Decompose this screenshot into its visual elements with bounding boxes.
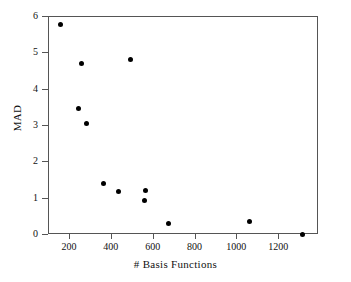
data-point [76, 106, 81, 111]
data-point [247, 219, 252, 224]
x-axis-label: # Basis Functions [0, 258, 351, 270]
data-point [128, 57, 133, 62]
x-axis-tick [236, 234, 237, 239]
y-axis-tick-label: 5 [33, 47, 38, 57]
data-point [116, 189, 121, 194]
data-point [79, 61, 84, 66]
x-axis-tick [195, 234, 196, 239]
y-axis-tick-label: 0 [33, 229, 38, 239]
x-axis-tick [278, 234, 279, 239]
data-point [143, 188, 148, 193]
data-point [58, 22, 63, 27]
data-point [84, 121, 89, 126]
data-point [166, 221, 171, 226]
y-axis-tick-label: 3 [33, 120, 38, 130]
y-axis-tick [42, 234, 48, 235]
x-axis-tick [153, 234, 154, 239]
x-axis-tick-label: 1200 [253, 241, 303, 252]
x-axis-tick [69, 234, 70, 239]
y-axis-tick-label: 4 [33, 84, 38, 94]
scatter-chart-figure: MAD 0123456 20040060080010001200 # Basis… [0, 0, 351, 282]
data-point [142, 198, 147, 203]
y-axis-tick-label: 6 [33, 11, 38, 21]
y-axis-tick-label: 1 [33, 193, 38, 203]
data-point [300, 232, 305, 237]
data-point [101, 181, 106, 186]
x-axis-tick [111, 234, 112, 239]
y-axis-label: MAD [11, 88, 23, 148]
plot-area [48, 16, 318, 234]
y-axis-tick-label: 2 [33, 156, 38, 166]
